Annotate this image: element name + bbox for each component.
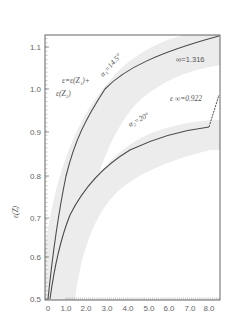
efficiency-chart: 0.5 0.6 0.7 0.8 0.9 1.0 1.1 0 1.0 2.0 3.… xyxy=(0,0,237,334)
x-tick-7: 7.0 xyxy=(184,304,196,313)
x-tick-0: 0 xyxy=(46,304,51,313)
formula-line-2: ε(Z₂) xyxy=(56,89,71,98)
y-tick-1-0: 1.0 xyxy=(30,85,42,94)
y-tick-0-6: 0.6 xyxy=(30,253,42,262)
x-tick-8: 8.0 xyxy=(203,304,215,313)
y-tick-labels: 0.5 0.6 0.7 0.8 0.9 1.0 1.1 xyxy=(30,43,42,304)
alpha-20-label: α₂=20° xyxy=(127,110,151,128)
y-tick-1-1: 1.1 xyxy=(30,43,42,52)
y-tick-0-5: 0.5 xyxy=(30,295,42,304)
x-tick-2: 2.0 xyxy=(80,304,92,313)
x-tick-labels: 0 1.0 2.0 3.0 4.0 5.0 6.0 7.0 8.0 xyxy=(46,304,215,313)
x-tick-6: 6.0 xyxy=(163,304,175,313)
asymptote-1-316-label: ∞=1.316 xyxy=(176,55,205,64)
y-tick-0-9: 0.9 xyxy=(30,128,42,137)
formula-line-1: ε=ε(Z₁)+ xyxy=(62,76,90,85)
y-axis-label: ε(Z) xyxy=(11,205,20,218)
asymptote-0-922-label: ε ∞=0.922 xyxy=(170,94,202,103)
x-tick-3: 3.0 xyxy=(101,304,113,313)
y-tick-0-8: 0.8 xyxy=(30,172,42,181)
confidence-bands xyxy=(45,35,220,300)
x-tick-5: 5.0 xyxy=(143,304,155,313)
x-tick-4: 4.0 xyxy=(122,304,134,313)
y-tick-0-7: 0.7 xyxy=(30,214,42,223)
x-tick-1: 1.0 xyxy=(60,304,72,313)
